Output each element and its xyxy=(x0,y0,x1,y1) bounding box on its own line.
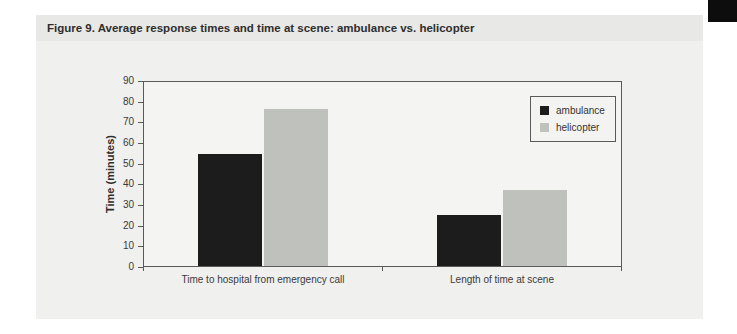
y-tick xyxy=(138,205,143,206)
y-tick xyxy=(138,143,143,144)
y-tick xyxy=(138,246,143,247)
legend-label-ambulance: ambulance xyxy=(556,105,605,116)
figure-title: Figure 9. Average response times and tim… xyxy=(36,15,703,41)
y-tick-label: 10 xyxy=(108,240,134,251)
ambulance-swatch-icon xyxy=(540,106,549,115)
ambulance-bar xyxy=(198,154,262,266)
y-tick xyxy=(138,122,143,123)
y-tick xyxy=(138,102,143,103)
legend-label-helicopter: helicopter xyxy=(556,122,599,133)
y-tick xyxy=(138,226,143,227)
x-tick xyxy=(382,267,383,271)
x-category-label: Time to hospital from emergency call xyxy=(143,274,383,285)
corner-block xyxy=(708,0,737,22)
x-tick xyxy=(621,267,622,271)
page: Figure 9. Average response times and tim… xyxy=(0,0,737,334)
x-tick xyxy=(143,267,144,271)
helicopter-bar xyxy=(264,109,328,266)
ambulance-bar xyxy=(437,215,501,266)
figure-title-band: Figure 9. Average response times and tim… xyxy=(36,15,703,41)
y-tick xyxy=(138,81,143,82)
y-tick-label: 30 xyxy=(108,199,134,210)
y-tick-label: 90 xyxy=(108,75,134,86)
y-tick xyxy=(138,164,143,165)
y-tick-label: 60 xyxy=(108,137,134,148)
y-tick-label: 50 xyxy=(108,158,134,169)
legend-entry-ambulance: ambulance xyxy=(540,104,605,117)
y-tick-label: 80 xyxy=(108,96,134,107)
legend-entry-helicopter: helicopter xyxy=(540,121,605,134)
x-category-label: Length of time at scene xyxy=(382,274,622,285)
y-tick-label: 20 xyxy=(108,220,134,231)
helicopter-swatch-icon xyxy=(540,123,549,132)
helicopter-bar xyxy=(503,190,567,266)
legend: ambulance helicopter xyxy=(530,96,616,142)
y-tick-label: 40 xyxy=(108,178,134,189)
chart-panel: Time (minutes) ambulance helicopter 0102… xyxy=(36,41,703,319)
y-tick-label: 0 xyxy=(108,261,134,272)
y-tick-label: 70 xyxy=(108,116,134,127)
y-tick xyxy=(138,184,143,185)
